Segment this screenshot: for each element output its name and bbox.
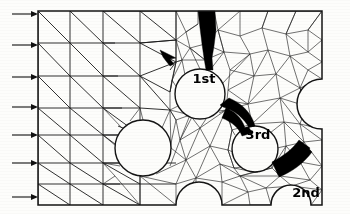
mesh-diagram-svg: 1st 3rd 2nd — [0, 0, 350, 214]
load-arrow — [12, 194, 38, 200]
crack-first-path — [198, 11, 216, 70]
load-arrows-group — [12, 11, 38, 200]
load-arrow — [12, 104, 38, 110]
load-arrow — [12, 74, 38, 80]
load-arrow — [12, 160, 38, 166]
load-arrow — [12, 11, 38, 17]
fem-mesh-figure: 1st 3rd 2nd — [0, 0, 350, 214]
pointer-arrow-icon — [160, 50, 176, 66]
load-arrow — [12, 42, 38, 48]
load-arrow — [12, 132, 38, 138]
crack-label-3rd: 3rd — [246, 127, 271, 142]
crack-label-1st: 1st — [193, 71, 216, 86]
crack-label-2nd: 2nd — [292, 185, 320, 200]
hole-left — [115, 120, 171, 176]
